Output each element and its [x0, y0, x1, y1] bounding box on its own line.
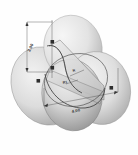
vertex-marker-mid: [51, 66, 55, 70]
vertex-marker-left: [37, 79, 41, 83]
vertex-marker-top: [51, 40, 55, 44]
vertex-marker-right: [110, 86, 114, 90]
figure-root: 2.00 4.00 R R1: [0, 0, 138, 155]
solid-model-figure: 2.00 4.00 R R1: [0, 0, 138, 155]
